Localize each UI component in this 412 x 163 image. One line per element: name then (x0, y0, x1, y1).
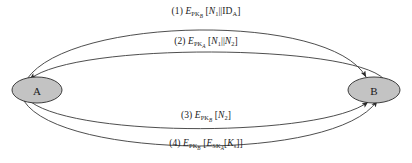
edge-path-2-b-to-a (30, 52, 384, 79)
edge-1-arg2-sub: A (232, 10, 237, 17)
protocol-diagram: A B (1) EPKB [N1||IDA] (2) EPKA [N1||N2]… (0, 0, 412, 163)
edge-1-cipher-sub: PK (191, 10, 199, 17)
edge-3-cipher-sub-sub: B (209, 117, 212, 123)
edge-2-arg2-sub: 2 (231, 40, 234, 47)
edge-label-2: (2) EPKA [N1||N2] (174, 36, 238, 46)
edge-2-cipher-sub: PK (194, 40, 202, 47)
edge-4-inner-arg-sub: s (234, 142, 237, 149)
edge-2-cipher-sub-sub: A (202, 43, 205, 49)
edge-label-4: (4) EPKB [ESKA[Ks]] (169, 138, 243, 148)
edge-4-cipher-sub: PK (189, 142, 197, 149)
edge-3-arg1-sub: 2 (225, 114, 228, 121)
edge-1-arg2: ID (222, 6, 232, 16)
edge-4-cipher-sub-sub: B (197, 145, 200, 151)
edge-3-arg1: N (218, 110, 224, 120)
edge-2-arg1-sub: 1 (218, 40, 221, 47)
edge-label-1: (1) EPKB [N1||IDA] (172, 6, 241, 16)
edge-4-inner-cipher-sub-sub: A (221, 145, 224, 151)
edge-2-index: (2) (174, 36, 185, 46)
edge-1-index: (1) (172, 6, 183, 16)
node-b-label: B (370, 85, 377, 97)
edge-1-close-bracket: ] (237, 6, 240, 16)
edge-3-index: (3) (181, 110, 192, 120)
node-a-label: A (33, 85, 41, 97)
edge-1-cipher-sub-sub: B (200, 13, 203, 19)
edge-label-3: (3) EPKB [N2] (181, 110, 231, 120)
edge-2-close-bracket: ] (235, 36, 238, 46)
edge-4-close-bracket: ] (240, 138, 243, 148)
edge-3-cipher-sub: PK (201, 114, 209, 121)
edge-4-index: (4) (169, 138, 180, 148)
edge-3-close-bracket: ] (228, 110, 231, 120)
edge-1-arg1: N (209, 6, 215, 16)
edge-1-arg1-sub: 1 (215, 10, 218, 17)
edge-2-arg1: N (211, 36, 217, 46)
